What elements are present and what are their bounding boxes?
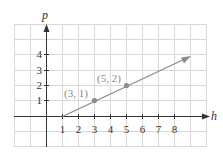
point-label-3-1: (3, 1) [64,87,88,100]
chart: 1 2 3 4 5 6 7 8 1 2 3 4 h p (3, 1) (5, 2… [0,0,223,157]
svg-text:1: 1 [60,123,66,135]
svg-text:1: 1 [37,94,43,106]
svg-text:3: 3 [37,64,43,76]
svg-text:2: 2 [76,123,82,135]
y-axis-label: p [41,8,48,22]
point-3-1 [92,98,97,103]
svg-text:7: 7 [156,123,162,135]
svg-text:4: 4 [108,123,114,135]
x-axis-label: h [211,109,217,123]
line-arrow-icon [181,56,191,64]
svg-text:4: 4 [37,48,43,60]
svg-text:6: 6 [140,123,146,135]
y-tick-labels: 1 2 3 4 [37,48,43,106]
svg-text:3: 3 [92,123,98,135]
y-axis-arrow-icon [44,24,50,32]
point-label-5-2: (5, 2) [97,72,121,85]
x-tick-labels: 1 2 3 4 5 6 7 8 [60,123,178,135]
point-5-2 [124,83,129,88]
svg-text:8: 8 [172,123,178,135]
svg-text:2: 2 [37,79,43,91]
svg-text:5: 5 [124,123,130,135]
